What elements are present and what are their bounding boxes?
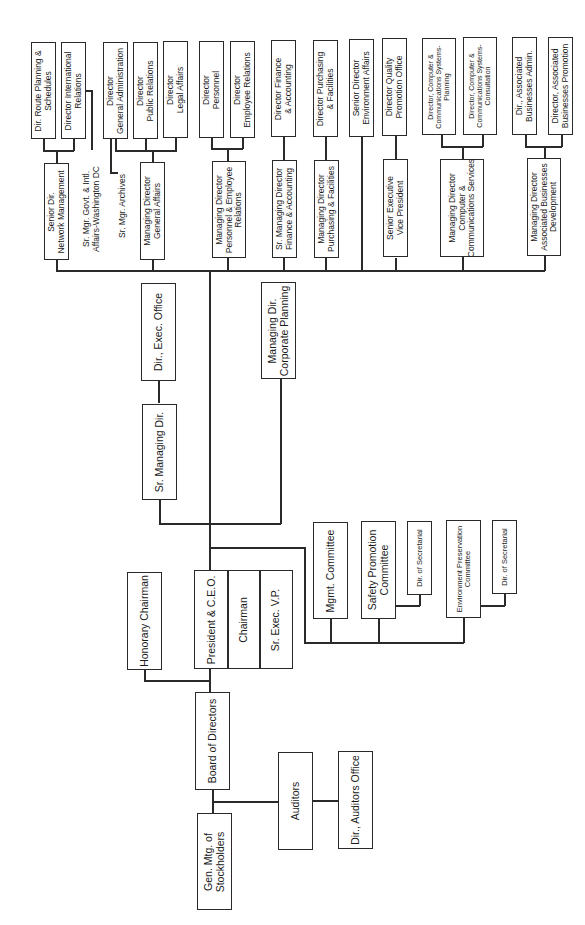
connector xyxy=(462,257,464,271)
node-label: Director Quality Promotion Office xyxy=(385,55,404,118)
connector xyxy=(56,260,58,271)
connector xyxy=(209,547,305,549)
connector xyxy=(152,260,154,271)
node-label: Environment Preservation Committee xyxy=(455,526,472,612)
node-md-associated: Managing Director Associated Businesses … xyxy=(527,158,561,256)
node-label: Gen. Mtg. of Stockholders xyxy=(203,831,227,892)
node-label: Dir., Auditors Office xyxy=(350,755,362,845)
connector xyxy=(330,618,332,643)
node-md-general-affairs: Managing Director General Affairs xyxy=(140,162,165,260)
connector xyxy=(152,150,154,162)
connector xyxy=(561,134,563,147)
node-president-group: President & C.E.O. Chairman Sr. Exec. V.… xyxy=(194,570,293,669)
node-label: Dir., Associated Businesses Admin. xyxy=(515,50,534,122)
node-chairman: Chairman xyxy=(228,571,260,668)
node-label: Director, Computer & Communications Syst… xyxy=(468,44,491,127)
connector xyxy=(73,138,75,151)
node-label: Director Legal Affairs xyxy=(166,66,185,113)
connector xyxy=(441,134,443,147)
node-senior-dir-environment: Senior Director Environment Affairs xyxy=(349,39,374,137)
node-dir-purchasing: Director Purchasing & Facilities xyxy=(313,40,338,137)
node-dir-international-relations: Director International Relations xyxy=(61,42,86,139)
connector xyxy=(56,150,58,163)
connector xyxy=(159,523,281,525)
node-dir-finance: Director Finance & Accounting xyxy=(271,40,296,137)
node-label: Auditors xyxy=(290,782,302,821)
node-label: Board of Directors xyxy=(207,699,219,784)
connector xyxy=(91,90,93,150)
node-label: Senior Director Environment Affairs xyxy=(352,51,371,125)
connector xyxy=(378,618,380,643)
connector xyxy=(43,138,45,151)
node-senior-dir-network: Senior Dir. Network Management xyxy=(44,163,69,260)
node-label: Dir. Route Planning & Schedules xyxy=(34,50,53,131)
connector xyxy=(419,594,421,606)
node-label: Sr. Managing Dir. xyxy=(154,412,166,493)
node-honorary-chairman: Honorary Chairman xyxy=(127,572,162,670)
node-dir-computer-consultation: Director, Computer & Communications Syst… xyxy=(463,37,497,135)
connector xyxy=(212,801,278,803)
connector xyxy=(227,258,229,271)
node-dir-exec-office: Dir., Exec. Office xyxy=(141,283,176,381)
node-senior-evp: Senior Executive Vice President xyxy=(383,159,408,257)
node-label: Director, Computer & Communications Syst… xyxy=(427,45,450,128)
node-label: Managing Director Personnel & Employee R… xyxy=(215,166,244,252)
node-sr-exec-vp: Sr. Exec. V.P. xyxy=(260,571,292,668)
node-label: Chairman xyxy=(238,597,250,643)
node-dir-associated-admin: Dir., Associated Businesses Admin. xyxy=(512,37,537,135)
node-dir-secretarial-2: Dir. of Secretarial xyxy=(492,520,517,594)
node-label: Director Public Relations xyxy=(136,60,155,121)
node-label: Sr. Mgr. Govt. & Intl. Affairs-Washingto… xyxy=(82,166,101,252)
node-mgmt-committee: Mgmt. Committee xyxy=(313,522,348,619)
node-md-computer: Managing Director Computer & Communicati… xyxy=(440,159,484,257)
node-board: Board of Directors xyxy=(195,692,230,790)
connector xyxy=(304,547,306,643)
connector xyxy=(144,680,210,682)
connector xyxy=(325,258,327,271)
node-label: President & C.E.O. xyxy=(206,575,218,664)
connector xyxy=(395,135,397,160)
connector xyxy=(283,258,285,271)
node-gen-mtg: Gen. Mtg. of Stockholders xyxy=(197,813,232,910)
connector xyxy=(175,138,177,151)
node-sr-managing-dir: Sr. Managing Dir. xyxy=(142,404,177,500)
node-label: Honorary Chairman xyxy=(139,575,151,667)
connector xyxy=(361,137,363,271)
connector xyxy=(159,499,161,523)
node-dir-public-relations: Director Public Relations xyxy=(133,42,158,139)
connector xyxy=(525,134,527,147)
node-label: Sr. Mgr. Archives xyxy=(118,174,128,238)
node-dir-quality: Director Quality Promotion Office xyxy=(382,38,407,136)
connector xyxy=(145,138,147,151)
node-dir-legal-affairs: Director Legal Affairs xyxy=(163,41,188,138)
node-auditors: Auditors xyxy=(278,752,313,850)
node-label: Managing Director Computer & Communicati… xyxy=(448,159,477,257)
node-env-committee: Environment Preservation Committee xyxy=(446,520,481,618)
node-dir-route-planning: Dir. Route Planning & Schedules xyxy=(31,42,56,139)
node-safety-committee: Safety Promotion Committee xyxy=(361,521,396,619)
connector xyxy=(482,134,484,147)
node-dir-employee-relations: Director Employee Relations xyxy=(230,41,255,138)
connector-main-bus xyxy=(56,270,545,272)
node-label: Senior Executive Vice President xyxy=(386,176,405,240)
connector xyxy=(525,146,562,148)
node-label: Dir. of Secretarial xyxy=(415,529,423,587)
node-label: Managing Director Purchasing & Facilitie… xyxy=(317,166,336,252)
node-dir-general-admin: Director General Administration xyxy=(103,42,128,139)
node-md-personnel: Managing Director Personnel & Employee R… xyxy=(212,161,246,258)
connector xyxy=(280,378,282,524)
connector xyxy=(227,148,229,162)
node-label: Safety Promotion Committee xyxy=(367,530,391,611)
node-md-purchasing: Managing Director Purchasing & Facilitie… xyxy=(314,160,339,258)
node-md-corporate-planning: Managing Dir. Corporate Planning xyxy=(261,282,296,379)
node-label: Dir., Exec. Office xyxy=(153,293,165,371)
connector xyxy=(110,138,112,173)
node-dir-associated-promotion: Director, Associated Businesses Promotio… xyxy=(548,37,573,135)
connector xyxy=(115,138,117,151)
connector xyxy=(395,605,420,607)
connector xyxy=(504,593,506,606)
connector xyxy=(158,380,160,403)
node-dir-secretarial-1: Dir. of Secretarial xyxy=(407,521,432,595)
node-label: Mgmt. Committee xyxy=(325,529,337,612)
node-label: Managing Director Associated Businesses … xyxy=(530,163,559,250)
